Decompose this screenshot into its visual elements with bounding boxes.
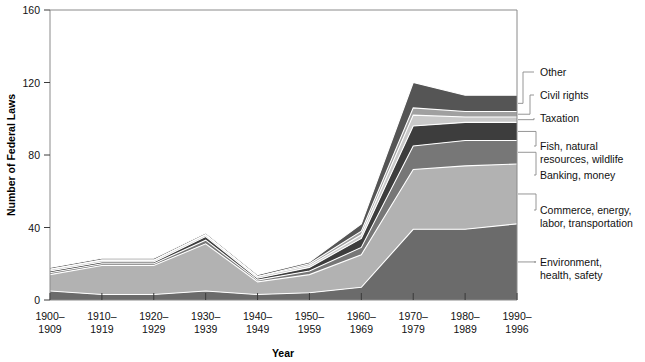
x-tick-label: 1980– bbox=[451, 310, 480, 322]
y-tick-label: 0 bbox=[34, 294, 40, 306]
legend-label: Banking, money bbox=[540, 169, 616, 181]
legend-label: Taxation bbox=[540, 112, 579, 124]
legend-label: labor, transportation bbox=[540, 217, 633, 229]
x-tick-label: 1950– bbox=[295, 310, 324, 322]
x-tick-label: 1959 bbox=[298, 323, 322, 335]
x-tick-label: 1900– bbox=[35, 310, 64, 322]
y-axis-ticks: 04080120160 bbox=[22, 4, 50, 306]
x-tick-label: 1909 bbox=[38, 323, 62, 335]
x-axis-title: Year bbox=[272, 347, 294, 359]
x-tick-label: 1910– bbox=[87, 310, 116, 322]
x-tick-label: 1979 bbox=[402, 323, 426, 335]
x-tick-label: 1960– bbox=[347, 310, 376, 322]
x-tick-label: 1929 bbox=[142, 323, 166, 335]
stacked-area-chart: 04080120160 1900–19091910–19191920–19291… bbox=[0, 0, 645, 362]
y-tick-label: 120 bbox=[22, 77, 40, 89]
legend-leader-line bbox=[518, 152, 536, 175]
x-tick-label: 1989 bbox=[453, 323, 477, 335]
legend-leader-line bbox=[518, 95, 534, 114]
x-tick-label: 1990– bbox=[502, 310, 531, 322]
x-tick-label: 1939 bbox=[194, 323, 218, 335]
x-tick-label: 1969 bbox=[350, 323, 374, 335]
legend-leader-line bbox=[518, 194, 536, 210]
x-tick-label: 1996 bbox=[505, 323, 529, 335]
legend-label: Civil rights bbox=[540, 89, 588, 101]
legend-leader-line bbox=[518, 118, 534, 120]
x-tick-label: 1919 bbox=[90, 323, 114, 335]
legend: OtherCivil rightsTaxationFish, naturalre… bbox=[518, 66, 633, 281]
x-tick-label: 1920– bbox=[139, 310, 168, 322]
y-tick-label: 40 bbox=[28, 222, 40, 234]
x-tick-label: 1940– bbox=[243, 310, 272, 322]
legend-label: Fish, natural bbox=[540, 140, 598, 152]
x-axis-tick-labels: 1900–19091910–19191920–19291930–19391940… bbox=[35, 310, 531, 335]
legend-label: health, safety bbox=[540, 269, 603, 281]
x-tick-label: 1949 bbox=[246, 323, 270, 335]
legend-leader-line bbox=[518, 131, 536, 146]
legend-label: Commerce, energy, bbox=[540, 204, 631, 216]
legend-leader-line bbox=[518, 72, 534, 103]
legend-label: Other bbox=[540, 66, 567, 78]
y-tick-label: 160 bbox=[22, 4, 40, 16]
y-tick-label: 80 bbox=[28, 149, 40, 161]
x-tick-label: 1930– bbox=[191, 310, 220, 322]
x-tick-label: 1970– bbox=[399, 310, 428, 322]
legend-label: Environment, bbox=[540, 256, 602, 268]
y-axis-title: Number of Federal Laws bbox=[5, 94, 17, 216]
legend-label: resources, wildlife bbox=[540, 153, 624, 165]
